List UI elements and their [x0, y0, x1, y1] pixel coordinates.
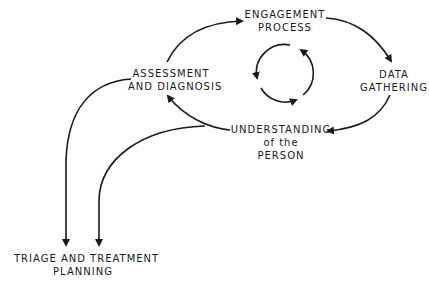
- node-triage-line1: TRIAGE AND TREATMENT: [14, 252, 152, 265]
- arrow-understanding-to-assessment: [168, 96, 230, 130]
- node-engagement-line1: ENGAGEMENT: [244, 8, 326, 21]
- arrow-understanding-to-triage: [99, 126, 205, 245]
- node-assessment-line2: AND DIAGNOSIS: [128, 80, 214, 93]
- node-data-line1: DATA: [360, 68, 428, 81]
- node-engagement: ENGAGEMENT PROCESS: [244, 8, 326, 34]
- node-engagement-line2: PROCESS: [244, 21, 326, 34]
- diagram-canvas: [0, 0, 429, 291]
- node-understanding-line1: UNDERSTANDING: [228, 123, 334, 136]
- node-triage: TRIAGE AND TREATMENT PLANNING: [14, 252, 152, 278]
- node-data-gathering: DATA GATHERING: [360, 68, 428, 94]
- node-assessment-line1: ASSESSMENT: [128, 67, 214, 80]
- node-assessment: ASSESSMENT AND DIAGNOSIS: [128, 67, 214, 93]
- node-data-line2: GATHERING: [360, 81, 428, 94]
- arrow-assessment-to-engagement: [167, 21, 242, 62]
- node-understanding: UNDERSTANDING of the PERSON: [228, 123, 334, 162]
- node-understanding-line3: PERSON: [228, 149, 334, 162]
- arrow-data-to-understanding: [328, 95, 390, 131]
- center-cycle-icon: [256, 44, 313, 102]
- node-understanding-line2: of the: [228, 136, 334, 149]
- node-triage-line2: PLANNING: [14, 265, 152, 278]
- arrow-engagement-to-data: [326, 18, 391, 61]
